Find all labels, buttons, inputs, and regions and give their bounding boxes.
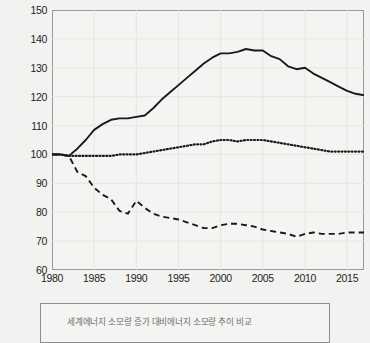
y-tick-80: 80 [13, 207, 47, 218]
chart-legend: 세계에너지 소모량 증가 대비에너지 소모량 추이 비교 [40, 303, 330, 343]
y-tick-150: 150 [13, 5, 47, 16]
legend-label-0: 세계에너지 소모량 증가 대비에너지 소모량 추이 비교 [67, 315, 252, 327]
x-tick-2000: 2000 [210, 272, 232, 284]
y-tick-70: 70 [13, 236, 47, 247]
y-tick-120: 120 [13, 92, 47, 103]
y-tick-90: 90 [13, 178, 47, 189]
x-tick-1995: 1995 [167, 272, 189, 284]
series-dashed [52, 154, 364, 236]
y-tick-110: 110 [13, 121, 47, 132]
x-tick-1990: 1990 [125, 272, 147, 284]
series-dotted [52, 140, 364, 156]
chart-lines-svg [52, 10, 364, 270]
x-tick-1980: 1980 [41, 272, 63, 284]
x-tick-2015: 2015 [336, 272, 358, 284]
x-axis-tick-labels: 19801985199019952000200520102015 [0, 272, 370, 292]
y-tick-130: 130 [13, 63, 47, 74]
x-tick-1985: 1985 [83, 272, 105, 284]
y-tick-100: 100 [13, 149, 47, 160]
series-solid [52, 49, 364, 156]
plot-area [52, 10, 364, 270]
x-tick-2010: 2010 [294, 272, 316, 284]
y-tick-140: 140 [13, 34, 47, 45]
x-tick-2005: 2005 [252, 272, 274, 284]
